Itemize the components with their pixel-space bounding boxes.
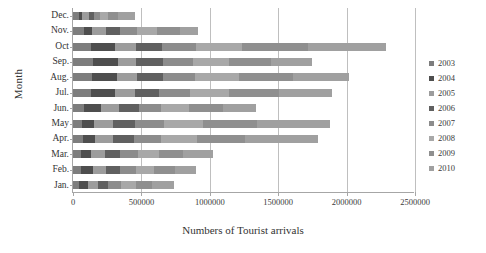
x-tick-label: 1500000 <box>263 197 293 207</box>
legend-label: 2005 <box>438 89 455 98</box>
bar-segment <box>138 150 160 158</box>
legend-item[interactable]: 2008 <box>429 131 483 146</box>
legend-swatch-icon <box>429 166 434 171</box>
legend-label: 2006 <box>438 104 455 113</box>
x-tick <box>141 192 142 196</box>
bar-row: Apr. <box>73 131 414 146</box>
stacked-bar <box>73 89 332 97</box>
legend-swatch-icon <box>429 76 434 81</box>
stacked-bar-chart: Month Dec.Nov.OctSep.Aug.Jul.Jun.MayApr.… <box>0 0 486 253</box>
bar-row: Nov. <box>73 23 414 38</box>
bar-segment <box>73 43 91 51</box>
bar-segment <box>120 150 138 158</box>
x-tick-label: 1000000 <box>195 197 225 207</box>
bar-segment <box>136 181 152 189</box>
bar-segment <box>163 58 193 66</box>
bar-segment <box>279 89 332 97</box>
bar-segment <box>139 104 162 112</box>
bar-segment <box>137 73 163 81</box>
bar-segment <box>91 89 115 97</box>
bar-segment <box>93 166 106 174</box>
category-label: Oct <box>3 39 69 54</box>
bar-segment <box>115 89 134 97</box>
bar-segment <box>193 58 229 66</box>
gridline <box>415 8 416 192</box>
bar-segment <box>152 181 174 189</box>
legend-label: 2010 <box>438 164 455 173</box>
category-label: Feb. <box>3 162 69 177</box>
bar-segment <box>105 150 120 158</box>
legend-item[interactable]: 2004 <box>429 71 483 86</box>
stacked-bar <box>73 58 312 66</box>
category-label: Dec. <box>3 8 69 23</box>
legend-swatch-icon <box>429 151 434 156</box>
category-label: Aug. <box>3 70 69 85</box>
bar-segment <box>83 135 96 143</box>
bar-segment <box>82 12 89 20</box>
bar-row: Jun. <box>73 101 414 116</box>
bar-segment <box>159 150 183 158</box>
legend-swatch-icon <box>429 91 434 96</box>
bar-segment <box>120 166 136 174</box>
legend-item[interactable]: 2006 <box>429 101 483 116</box>
stacked-bar <box>73 135 318 143</box>
x-tick-label: 2000000 <box>332 197 362 207</box>
bar-segment <box>175 166 197 174</box>
bar-segment <box>161 135 197 143</box>
x-axis-title: Numbers of Tourist arrivals <box>72 224 414 236</box>
bar-segment <box>203 120 256 128</box>
category-label: Mar. <box>3 147 69 162</box>
stacked-bar <box>73 12 135 20</box>
bar-segment <box>73 73 92 81</box>
bar-segment <box>79 181 87 189</box>
bar-segment <box>134 135 161 143</box>
bar-segment <box>308 43 386 51</box>
x-tick-label: 500000 <box>129 197 155 207</box>
bar-segment <box>73 120 82 128</box>
legend-item[interactable]: 2010 <box>429 161 483 176</box>
bar-segment <box>229 58 271 66</box>
bar-segment <box>100 12 109 20</box>
legend-item[interactable]: 2007 <box>429 116 483 131</box>
stacked-bar <box>73 73 349 81</box>
bar-segment <box>93 58 118 66</box>
bar-segment <box>101 104 119 112</box>
bar-segment <box>98 181 109 189</box>
category-label: May <box>3 116 69 131</box>
bar-segment <box>119 104 139 112</box>
x-tick-label: 0 <box>71 197 75 207</box>
bar-segment <box>73 135 83 143</box>
bar-segment <box>190 89 230 97</box>
bar-segment <box>91 150 105 158</box>
legend-item[interactable]: 2005 <box>429 86 483 101</box>
bar-segment <box>180 27 198 35</box>
stacked-bar <box>73 104 256 112</box>
bar-segment <box>115 43 136 51</box>
legend-swatch-icon <box>429 121 434 126</box>
bar-segment <box>245 135 317 143</box>
bar-segment <box>94 120 114 128</box>
legend-label: 2007 <box>438 119 455 128</box>
bar-row: Sep. <box>73 54 414 69</box>
legend-item[interactable]: 2009 <box>429 146 483 161</box>
bar-segment <box>84 104 101 112</box>
plot-area: Dec.Nov.OctSep.Aug.Jul.Jun.MayApr.Mar.Fe… <box>72 8 414 193</box>
bar-row: Dec. <box>73 8 414 23</box>
bar-segment <box>135 89 160 97</box>
bar-row: May <box>73 116 414 131</box>
legend-label: 2003 <box>438 59 455 68</box>
stacked-bar <box>73 150 213 158</box>
bar-segment <box>161 104 189 112</box>
bar-row: Oct <box>73 39 414 54</box>
category-label: Sep. <box>3 54 69 69</box>
legend-item[interactable]: 2003 <box>429 56 483 71</box>
bar-row: Feb. <box>73 162 414 177</box>
bar-segment <box>154 166 174 174</box>
legend-swatch-icon <box>429 106 434 111</box>
bar-segment <box>136 58 163 66</box>
bar-segment <box>81 166 92 174</box>
stacked-bar <box>73 43 386 51</box>
bar-segment <box>117 73 138 81</box>
stacked-bar <box>73 166 197 174</box>
bar-segment <box>120 27 136 35</box>
